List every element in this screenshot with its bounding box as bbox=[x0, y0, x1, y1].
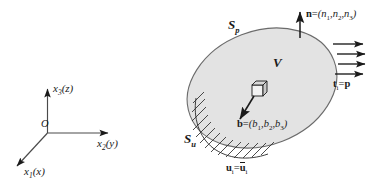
displacement-bc-label: ui=ui bbox=[226, 163, 248, 176]
origin-label: O bbox=[41, 119, 49, 130]
body-force-vector-label: b=(b1,b2,b3) bbox=[237, 119, 287, 132]
coordinate-axes bbox=[17, 89, 108, 166]
traction-vector-label: ti=p bbox=[333, 79, 350, 92]
displacement-surface-label: Su bbox=[184, 132, 196, 148]
axis-label-x1: x1(x) bbox=[24, 166, 45, 180]
traction-surface-label: Sp bbox=[228, 18, 239, 34]
continuum-body-figure: x3(z) x2(y) x1(x) O Sp Su V n=(n1,n2,n3)… bbox=[0, 0, 369, 186]
traction-arrows bbox=[333, 44, 365, 74]
volume-label: V bbox=[273, 56, 282, 69]
axis-label-x2: x2(y) bbox=[97, 138, 118, 152]
differential-volume-element bbox=[252, 81, 267, 96]
normal-vector-label: n=(n1,n2,n3) bbox=[306, 9, 356, 22]
axis-label-x3: x3(z) bbox=[53, 83, 73, 97]
axis-x1-line bbox=[17, 133, 48, 166]
